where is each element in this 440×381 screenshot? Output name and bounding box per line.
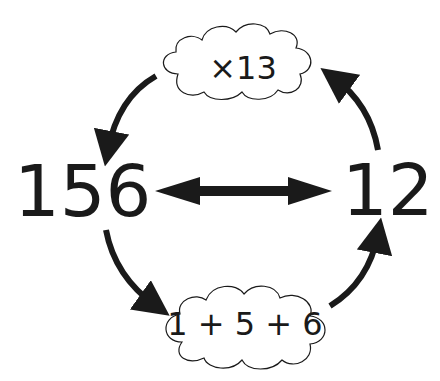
- arrow-top-left-icon: [108, 76, 156, 150]
- bottom-cloud-label: 1 + 5 + 6: [167, 305, 322, 343]
- top-cloud-label: ×13: [209, 49, 277, 87]
- double-arrow-icon: [155, 177, 332, 205]
- arrow-top-right-icon: [334, 78, 378, 150]
- bottom-cloud: 1 + 5 + 6: [166, 286, 325, 369]
- arrow-bottom-right-icon: [330, 234, 378, 306]
- right-number: 12: [342, 148, 434, 232]
- cycle-diagram: ×13 1 + 5 + 6 156 12: [0, 0, 440, 381]
- left-number: 156: [14, 149, 151, 233]
- top-cloud: ×13: [163, 24, 310, 100]
- arrow-bottom-left-icon: [106, 230, 156, 306]
